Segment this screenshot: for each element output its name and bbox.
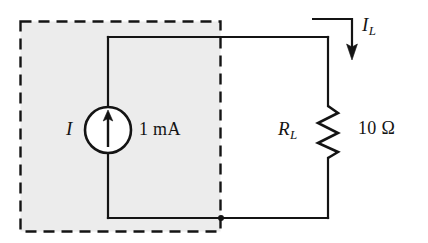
load-current-arrow-shaft [312, 19, 352, 48]
load-current-symbol-subscript: L [368, 23, 376, 38]
load-resistor-symbol-subscript: L [290, 127, 298, 142]
load-resistor-zigzag [318, 106, 338, 158]
circuit-diagram: I 1 mA RL 10 Ω IL [0, 0, 428, 243]
current-source-symbol-label: I [66, 119, 72, 138]
load-current-symbol-label: IL [362, 15, 376, 38]
load-resistor-value-label: 10 Ω [358, 119, 395, 137]
node-dot-bottom [218, 215, 224, 221]
load-resistor-symbol-label: RL [278, 119, 297, 142]
current-source-value-label: 1 mA [139, 120, 181, 138]
load-resistor-symbol-base: R [278, 118, 290, 139]
